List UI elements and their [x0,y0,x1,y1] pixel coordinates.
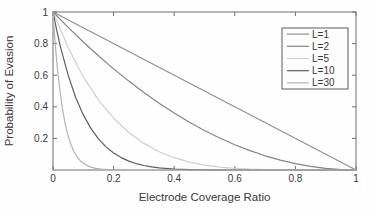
x-tick-label: 0.4 [167,173,181,184]
y-tick-label: 0.6 [34,70,48,81]
legend-label: L=10 [312,65,335,76]
legend-label: L=30 [312,77,335,88]
y-tick-label: 1 [42,7,48,18]
x-tick-label: 0.6 [228,173,242,184]
legend: L=1L=2L=5L=10L=30 [282,28,348,89]
x-tick-label: 0 [50,173,56,184]
legend-label: L=1 [312,29,329,40]
legend-label: L=2 [312,41,329,52]
evasion-probability-chart: 00.20.40.60.810.20.40.60.81L=1L=2L=5L=10… [0,0,374,213]
y-tick-label: 0.4 [34,101,48,112]
x-axis-label: Electrode Coverage Ratio [139,191,271,203]
figure-container: 00.20.40.60.810.20.40.60.81L=1L=2L=5L=10… [0,0,374,213]
plot-area: 00.20.40.60.810.20.40.60.81L=1L=2L=5L=10… [34,7,359,185]
y-tick-label: 0.2 [34,133,48,144]
legend-label: L=5 [312,53,329,64]
x-tick-label: 0.8 [288,173,302,184]
y-tick-label: 0.8 [34,38,48,49]
x-tick-label: 1 [353,173,359,184]
y-axis-label: Probability of Evasion [3,36,15,147]
x-tick-label: 0.2 [107,173,121,184]
